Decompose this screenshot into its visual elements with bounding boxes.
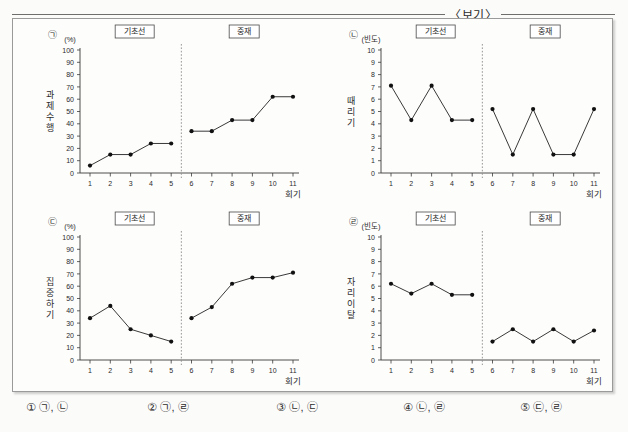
data-point: [210, 129, 214, 133]
data-point: [571, 152, 575, 156]
x-tick-label: 6: [490, 367, 494, 374]
data-point: [490, 339, 494, 343]
x-tick-label: 11: [590, 367, 597, 374]
x-tick-label: 9: [250, 367, 254, 374]
x-tick-label: 8: [230, 180, 234, 187]
x-tick-label: 2: [108, 180, 112, 187]
x-tick-label: 1: [88, 180, 92, 187]
y-tick-label: 0: [70, 357, 74, 364]
data-point: [531, 107, 535, 111]
answer-option-2[interactable]: ② ㉠, ㉣: [147, 398, 190, 414]
x-tick-label: 2: [409, 367, 413, 374]
y-axis-name-char: 때: [347, 96, 355, 106]
answer-option-1[interactable]: ① ㉠, ㉡: [26, 398, 69, 414]
answer-option-4-label: ㉡, ㉣: [416, 398, 446, 414]
data-point: [470, 118, 474, 122]
y-tick-label: 4: [371, 307, 375, 314]
phase-label-text-1: 기초선: [425, 214, 446, 223]
data-point: [388, 282, 392, 286]
chart-cell-b: ㉡(빈도)0123456789101234567891011회기때리기기초선중재: [313, 18, 614, 205]
data-point: [510, 327, 514, 331]
answer-option-3-number: ③: [276, 401, 286, 414]
y-axis-name-char: 자: [347, 277, 356, 287]
y-tick-label: 6: [371, 283, 375, 290]
y-tick-label: 70: [66, 271, 74, 278]
y-axis-name-char: 탈: [347, 310, 355, 320]
data-point: [169, 141, 173, 145]
x-tick-label: 1: [88, 367, 92, 374]
y-tick-label: 40: [66, 307, 74, 314]
x-axis-name: 회기: [285, 376, 301, 386]
data-point: [108, 152, 112, 156]
data-point: [230, 118, 234, 122]
phase-label-text-1: 기초선: [425, 27, 446, 36]
y-unit-label: (%): [64, 35, 76, 44]
y-tick-label: 5: [371, 295, 375, 302]
answer-option-3[interactable]: ③ ㉡, ㉢: [276, 398, 319, 414]
y-tick-label: 9: [371, 246, 375, 253]
x-tick-label: 5: [470, 367, 474, 374]
data-point: [429, 84, 433, 88]
y-tick-label: 7: [371, 84, 375, 91]
y-tick-label: 100: [62, 47, 74, 54]
data-point: [210, 305, 214, 309]
chart-cell-d: ㉣(빈도)0123456789101234567891011회기자리이탈기초선중…: [313, 205, 614, 392]
data-point: [571, 339, 575, 343]
x-tick-label: 5: [169, 180, 173, 187]
chart-c: ㉢(%)01020304050607080901001234567891011회…: [12, 205, 313, 392]
x-tick-label: 11: [590, 180, 597, 187]
x-tick-label: 3: [429, 367, 433, 374]
y-unit-label: (빈도): [361, 35, 380, 44]
x-tick-label: 8: [531, 180, 535, 187]
x-tick-label: 6: [190, 180, 194, 187]
x-tick-label: 7: [210, 367, 214, 374]
y-axis-name-char: 이: [347, 299, 355, 309]
answer-option-4[interactable]: ④ ㉡, ㉣: [403, 398, 446, 414]
data-point: [250, 275, 254, 279]
x-axis-name: 회기: [285, 189, 301, 199]
x-tick-label: 7: [210, 180, 214, 187]
header-rule-left: [12, 14, 445, 15]
x-tick-label: 1: [389, 367, 393, 374]
x-tick-label: 4: [449, 367, 453, 374]
chart-marker-㉠: ㉠: [48, 30, 57, 40]
y-axis-name-char: 과: [46, 90, 54, 100]
x-tick-label: 3: [129, 367, 133, 374]
x-tick-label: 5: [169, 367, 173, 374]
y-tick-label: 60: [66, 283, 74, 290]
answer-option-1-number: ①: [26, 401, 36, 414]
y-tick-label: 0: [371, 170, 375, 177]
answer-option-5-number: ⑤: [520, 401, 530, 414]
answer-option-5[interactable]: ⑤ ㉢, ㉣: [520, 398, 563, 414]
data-point: [449, 118, 453, 122]
phase-label-text-2: 중재: [237, 214, 251, 223]
y-axis-name-char: 제: [46, 101, 54, 111]
chart-a: ㉠(%)01020304050607080901001234567891011회…: [12, 18, 313, 205]
x-tick-label: 6: [190, 367, 194, 374]
y-tick-label: 100: [62, 234, 74, 241]
data-point: [169, 339, 173, 343]
chart-b: ㉡(빈도)0123456789101234567891011회기때리기기초선중재: [313, 18, 614, 205]
header-rule-right: [501, 14, 615, 15]
x-tick-label: 1: [389, 180, 393, 187]
phase-label-text-1: 기초선: [124, 27, 145, 36]
y-tick-label: 70: [66, 84, 74, 91]
x-tick-label: 7: [510, 180, 514, 187]
y-tick-label: 30: [66, 320, 74, 327]
y-axis-name-char: 수: [46, 112, 54, 122]
data-point: [271, 275, 275, 279]
series-line-2: [192, 97, 294, 131]
data-point: [429, 282, 433, 286]
answer-option-3-label: ㉡, ㉢: [289, 398, 319, 414]
series-line-2: [492, 109, 594, 155]
phase-label-text-2: 중재: [538, 214, 552, 223]
y-tick-label: 40: [66, 120, 74, 127]
y-tick-label: 10: [367, 234, 375, 241]
y-tick-label: 7: [371, 271, 375, 278]
data-point: [409, 118, 413, 122]
y-axis-name-char: 행: [46, 122, 54, 133]
data-point: [189, 129, 193, 133]
x-tick-label: 6: [490, 180, 494, 187]
y-tick-label: 0: [70, 170, 74, 177]
y-tick-label: 10: [66, 344, 74, 351]
